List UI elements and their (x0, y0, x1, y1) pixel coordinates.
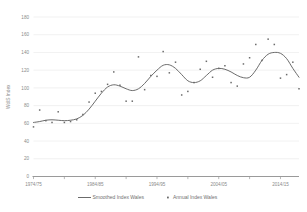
smoothed-index-line (34, 52, 300, 122)
annual-index-point (144, 89, 146, 91)
annual-index-point (169, 72, 171, 74)
annual-index-point (249, 57, 251, 59)
y-axis-tick-labels: 020406080100120140160180 (21, 15, 29, 180)
x-axis-tick-label: 1974/75 (25, 182, 42, 187)
gridlines-group (34, 17, 300, 177)
annual-index-point (39, 109, 41, 111)
annual-index-point (255, 44, 257, 46)
y-axis-tick-label: 100 (21, 86, 29, 91)
y-axis-tick-label: 180 (21, 15, 29, 20)
annual-index-point (267, 38, 269, 40)
annual-index-point (193, 82, 195, 84)
annual-index-point (101, 91, 103, 93)
annual-index-point (218, 68, 220, 70)
y-axis-title: WdlS Index (7, 84, 12, 109)
series-smoothed-index-wales (34, 52, 300, 122)
x-axis-group (33, 177, 300, 180)
y-axis-tick-label: 80 (24, 103, 30, 108)
annual-index-point (113, 71, 115, 73)
annual-index-point (94, 92, 96, 94)
y-axis-tick-label: 60 (24, 121, 30, 126)
x-axis-tick-label: 2004/05 (210, 182, 227, 187)
annual-index-point (237, 85, 239, 87)
annual-index-point (33, 126, 35, 128)
x-axis-tick-labels: 1974/751984/851994/952004/052014/15 (25, 182, 289, 187)
annual-index-point (175, 61, 177, 63)
chart-plot-area: 020406080100120140160180 1974/751984/851… (0, 0, 307, 212)
series-annual-index-wales (33, 38, 300, 127)
y-axis-tick-label: 40 (24, 139, 30, 144)
annual-index-point (212, 77, 214, 79)
annual-index-point (70, 121, 72, 123)
annual-index-point (206, 61, 208, 63)
annual-index-point (261, 60, 263, 62)
x-axis-tick-label: 1984/85 (87, 182, 104, 187)
annual-index-point (243, 63, 245, 65)
annual-index-point (82, 114, 84, 116)
annual-index-point (230, 82, 232, 84)
chart-container: 020406080100120140160180 1974/751984/851… (0, 0, 307, 212)
annual-index-point (280, 77, 282, 79)
annual-index-point (298, 88, 300, 90)
y-axis-tick-label: 160 (21, 32, 29, 37)
annual-index-point (76, 119, 78, 121)
annual-index-point (292, 61, 294, 63)
annual-index-point (51, 122, 53, 124)
legend-square-swatch (167, 197, 169, 199)
y-axis-tick-label: 140 (21, 50, 29, 55)
annual-index-point (132, 100, 134, 102)
annual-index-point (224, 65, 226, 67)
annual-index-point (199, 69, 201, 71)
annual-index-point (138, 56, 140, 58)
annual-index-point (64, 122, 65, 124)
annual-index-point (162, 51, 164, 53)
annual-index-point (125, 100, 127, 102)
annual-index-point (88, 101, 90, 103)
annual-index-point (274, 44, 276, 46)
annual-index-point (156, 76, 158, 78)
annual-index-point (181, 94, 183, 96)
legend-label-annual: Annual Index Wales (173, 194, 218, 200)
x-axis-tick-label: 1994/95 (149, 182, 166, 187)
x-axis-tick-label: 2014/15 (272, 182, 289, 187)
annual-index-point (57, 111, 59, 113)
y-axis-tick-label: 20 (24, 156, 30, 161)
annual-index-point (286, 74, 288, 76)
legend-label-smoothed: Smoothed Index Wales (93, 194, 145, 200)
y-axis-tick-label: 0 (26, 174, 29, 179)
annual-index-point (187, 91, 189, 93)
annual-index-point (107, 84, 109, 86)
legend: Smoothed Index WalesAnnual Index Wales (78, 194, 218, 200)
annual-index-point (150, 75, 152, 77)
y-axis-tick-label: 120 (21, 68, 29, 73)
annual-index-point (45, 120, 47, 122)
annual-index-point (119, 84, 121, 86)
chart-svg: 020406080100120140160180 1974/751984/851… (0, 0, 307, 212)
